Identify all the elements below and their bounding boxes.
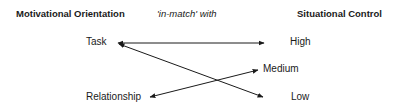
arrow-task-low	[119, 44, 263, 97]
connection-arrows	[0, 0, 396, 109]
arrow-relationship-medium	[150, 70, 258, 97]
